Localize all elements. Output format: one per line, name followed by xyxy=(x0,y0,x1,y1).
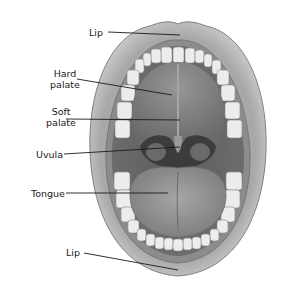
label-soft-palate-line2: palate xyxy=(43,117,79,128)
label-hard-palate: Hard palate xyxy=(47,68,83,90)
label-hard-palate-line2: palate xyxy=(47,79,83,90)
label-lip-top: Lip xyxy=(89,27,103,38)
label-soft-palate-line1: Soft xyxy=(43,106,79,117)
label-lip-bottom: Lip xyxy=(66,247,80,258)
label-soft-palate: Soft palate xyxy=(43,106,79,128)
mouth-diagram: Lip Hard palate Soft palate Uvula Tongue… xyxy=(0,0,285,303)
label-hard-palate-line1: Hard xyxy=(47,68,83,79)
label-uvula: Uvula xyxy=(36,149,63,160)
label-tongue: Tongue xyxy=(31,188,65,199)
